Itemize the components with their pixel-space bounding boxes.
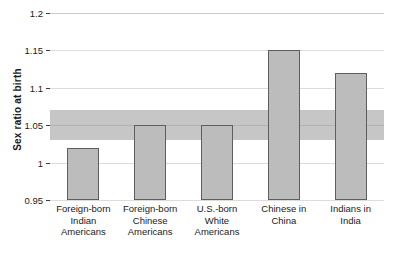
bar xyxy=(67,148,99,200)
x-axis-category-line: India xyxy=(317,215,384,227)
plot-area: 0.9511.051.11.151.2 xyxy=(50,13,384,200)
y-axis-tick xyxy=(46,163,50,164)
x-axis-category-line: Chinese in xyxy=(250,203,317,215)
x-axis-category-label: Foreign-bornIndianAmericans xyxy=(50,203,117,238)
x-axis-category-label: U.S.-bornWhiteAmericans xyxy=(184,203,251,238)
y-axis-tick-label: 1.15 xyxy=(25,46,44,55)
y-axis-tick xyxy=(46,200,50,201)
y-axis-title: Sex ratio at birth xyxy=(12,40,23,180)
x-axis-category-line: Indians in xyxy=(317,203,384,215)
x-axis-category-line: Americans xyxy=(50,226,117,238)
x-axis-category-line: Foreign-born xyxy=(50,203,117,215)
x-axis-category-line: U.S.-born xyxy=(184,203,251,215)
x-axis-category-line: Americans xyxy=(117,226,184,238)
bar-chart: Sex ratio at birth 0.9511.051.11.151.2 F… xyxy=(0,0,395,259)
x-axis-category-line: Americans xyxy=(184,226,251,238)
bar xyxy=(268,50,300,200)
bar xyxy=(335,73,367,200)
x-axis-labels: Foreign-bornIndianAmericansForeign-bornC… xyxy=(50,203,384,259)
x-axis-category-line: Foreign-born xyxy=(117,203,184,215)
x-axis-category-label: Indians inIndia xyxy=(317,203,384,226)
bar xyxy=(134,125,166,200)
y-axis-tick-label: 0.95 xyxy=(25,196,44,205)
y-axis-tick xyxy=(46,88,50,89)
x-axis-category-line: Chinese xyxy=(117,215,184,227)
x-axis-category-line: Indian xyxy=(50,215,117,227)
x-axis-category-line: China xyxy=(250,215,317,227)
gridline xyxy=(50,50,384,51)
gridline xyxy=(50,13,384,14)
bar xyxy=(201,125,233,200)
y-axis-tick-label: 1.2 xyxy=(30,9,43,18)
x-axis-category-line: White xyxy=(184,215,251,227)
x-axis-category-label: Chinese inChina xyxy=(250,203,317,226)
y-axis-tick xyxy=(46,13,50,14)
y-axis-tick-label: 1.1 xyxy=(30,83,43,92)
x-axis-category-label: Foreign-bornChineseAmericans xyxy=(117,203,184,238)
gridline xyxy=(50,200,384,201)
y-axis-tick-label: 1.05 xyxy=(25,121,44,130)
y-axis-tick xyxy=(46,50,50,51)
y-axis-tick-label: 1 xyxy=(38,158,43,167)
